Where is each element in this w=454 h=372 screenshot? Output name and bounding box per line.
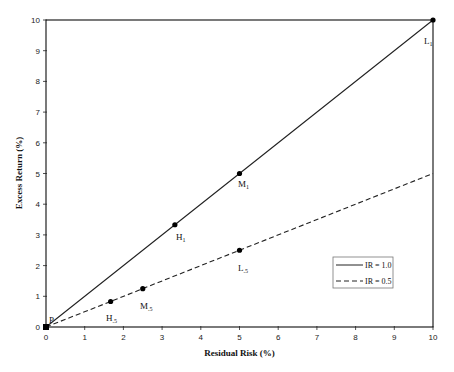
y-tick-label: 2 — [36, 262, 41, 271]
x-axis-title: Residual Risk (%) — [204, 348, 275, 358]
y-tick-label: 6 — [36, 139, 41, 148]
y-tick-label: 3 — [36, 231, 41, 240]
y-tick-label: 8 — [36, 77, 41, 86]
x-tick-label: 5 — [237, 333, 242, 342]
point-label-h5: H.5 — [106, 313, 117, 324]
y-tick-label: 0 — [36, 323, 41, 332]
x-tick-label: 6 — [276, 333, 281, 342]
point-label-l1: L1 — [424, 36, 433, 47]
x-tick-label: 4 — [199, 333, 204, 342]
point-label-l5: L.5 — [238, 263, 248, 274]
data-point — [237, 171, 242, 176]
y-axis-title: Excess Return (%) — [14, 137, 24, 210]
chart: 012345678910 012345678910 Residual Risk … — [0, 0, 454, 372]
x-tick-label: 2 — [121, 333, 126, 342]
y-tick-label: 7 — [36, 108, 41, 117]
point-label-m1: M1 — [238, 179, 249, 190]
x-axis-ticks: 012345678910 — [44, 326, 438, 342]
data-point — [172, 222, 177, 227]
x-tick-label: 0 — [44, 333, 49, 342]
y-tick-label: 9 — [36, 47, 41, 56]
legend-label-ir-05: IR = 0.5 — [365, 277, 392, 286]
point-label-m5: M.5 — [140, 301, 153, 312]
y-axis-ticks: 012345678910 — [31, 16, 47, 332]
point-label-p: P — [49, 315, 54, 325]
point-label-h1: H1 — [176, 232, 186, 243]
x-tick-label: 9 — [392, 333, 397, 342]
y-tick-label: 5 — [36, 170, 41, 179]
legend: IR = 1.0 IR = 0.5 — [333, 257, 393, 288]
y-tick-label: 1 — [36, 292, 41, 301]
x-tick-label: 8 — [353, 333, 358, 342]
legend-label-ir-1: IR = 1.0 — [365, 261, 392, 270]
x-tick-label: 10 — [429, 333, 438, 342]
x-tick-label: 3 — [160, 333, 165, 342]
x-tick-label: 7 — [315, 333, 320, 342]
data-point — [430, 17, 435, 22]
data-point — [108, 299, 113, 304]
y-tick-label: 10 — [31, 16, 40, 25]
y-tick-label: 4 — [36, 200, 41, 209]
data-point — [140, 286, 145, 291]
data-point — [237, 248, 242, 253]
x-tick-label: 1 — [82, 333, 87, 342]
